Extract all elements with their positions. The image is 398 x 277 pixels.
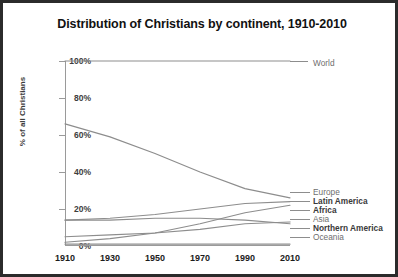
- series-label-oceania: Oceania: [313, 232, 344, 242]
- x-tick-label: 2010: [266, 253, 314, 263]
- series-lines: [65, 61, 290, 246]
- chart-card: Distribution of Christians by continent,…: [0, 0, 398, 277]
- x-tick-label: 1970: [176, 253, 224, 263]
- chart-title: Distribution of Christians by continent,…: [3, 17, 398, 31]
- series-leader-line: [290, 210, 310, 211]
- series-leader-line: [290, 61, 308, 62]
- y-axis-title: % of all Christians: [18, 57, 27, 167]
- series-label-world: World: [313, 58, 335, 68]
- x-tick-label: 1910: [41, 253, 89, 263]
- x-tick-label: 1930: [86, 253, 134, 263]
- series-line: [65, 222, 290, 237]
- series-leader-line: [290, 201, 310, 202]
- plot-area: [65, 61, 290, 246]
- series-leader-line: [290, 237, 310, 238]
- series-leader-line: [290, 219, 310, 220]
- series-leader-line: [290, 228, 310, 229]
- series-leader-line: [290, 192, 310, 193]
- x-tick-label: 1950: [131, 253, 179, 263]
- series-line: [65, 124, 290, 198]
- x-tick-label: 1990: [221, 253, 269, 263]
